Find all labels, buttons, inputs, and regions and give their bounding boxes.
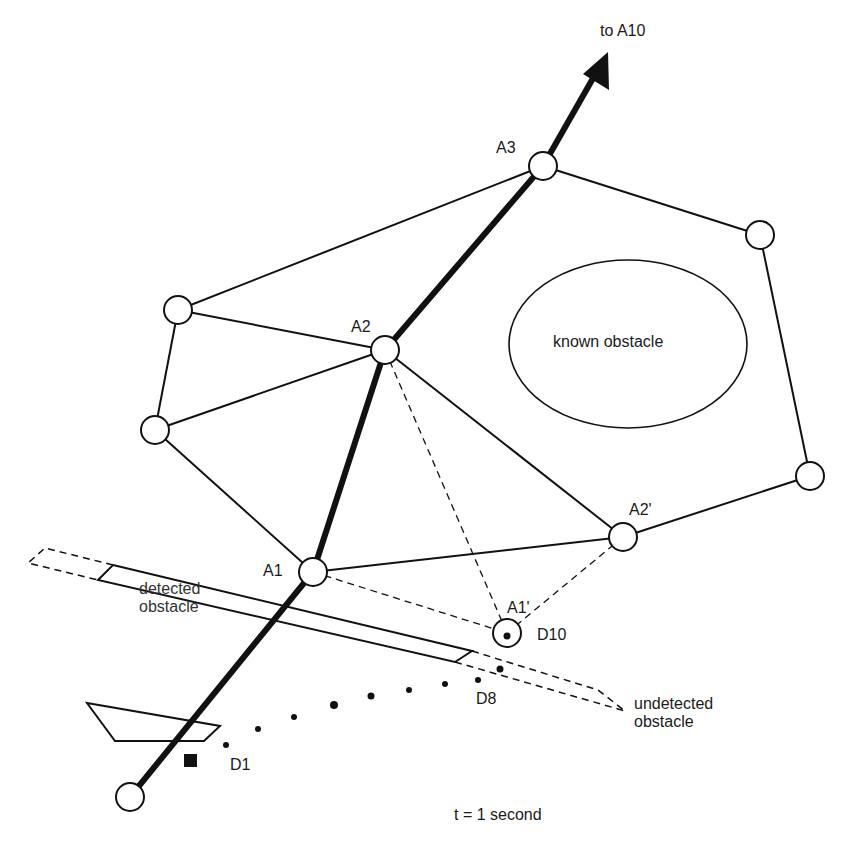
- label-undetected-obstacle: undetected obstacle: [634, 695, 713, 732]
- label-a2-prime: A2': [629, 501, 652, 519]
- node-a2-prime: [609, 523, 637, 551]
- node-top-left: [164, 296, 192, 324]
- node-a1: [299, 558, 327, 586]
- label-a2: A2: [351, 318, 371, 336]
- label-known-obstacle: known obstacle: [553, 333, 663, 351]
- label-undetected-line2: obstacle: [634, 713, 713, 731]
- label-time: t = 1 second: [454, 806, 542, 824]
- node-a3: [529, 152, 557, 180]
- label-detected-line1: detected: [139, 580, 200, 598]
- planned-path: [130, 73, 596, 797]
- position-marker: [184, 754, 197, 767]
- label-detected-line2: obstacle: [139, 598, 200, 616]
- node-right-bottom: [796, 462, 824, 490]
- label-d1: D1: [230, 756, 250, 774]
- route-diagram: [0, 0, 845, 842]
- roadmap-edges: [155, 166, 810, 572]
- label-a1-prime: A1': [507, 599, 530, 617]
- label-a3: A3: [496, 139, 516, 157]
- node-start: [116, 783, 144, 811]
- node-right-top: [746, 221, 774, 249]
- label-detected-obstacle: detected obstacle: [139, 580, 200, 617]
- node-left: [141, 416, 169, 444]
- label-undetected-line1: undetected: [634, 695, 713, 713]
- label-a1: A1: [263, 562, 283, 580]
- node-a2: [371, 336, 399, 364]
- label-d8: D8: [476, 690, 496, 708]
- label-d10: D10: [537, 626, 566, 644]
- replanned-edges: [313, 350, 623, 633]
- label-to-a10: to A10: [600, 22, 645, 40]
